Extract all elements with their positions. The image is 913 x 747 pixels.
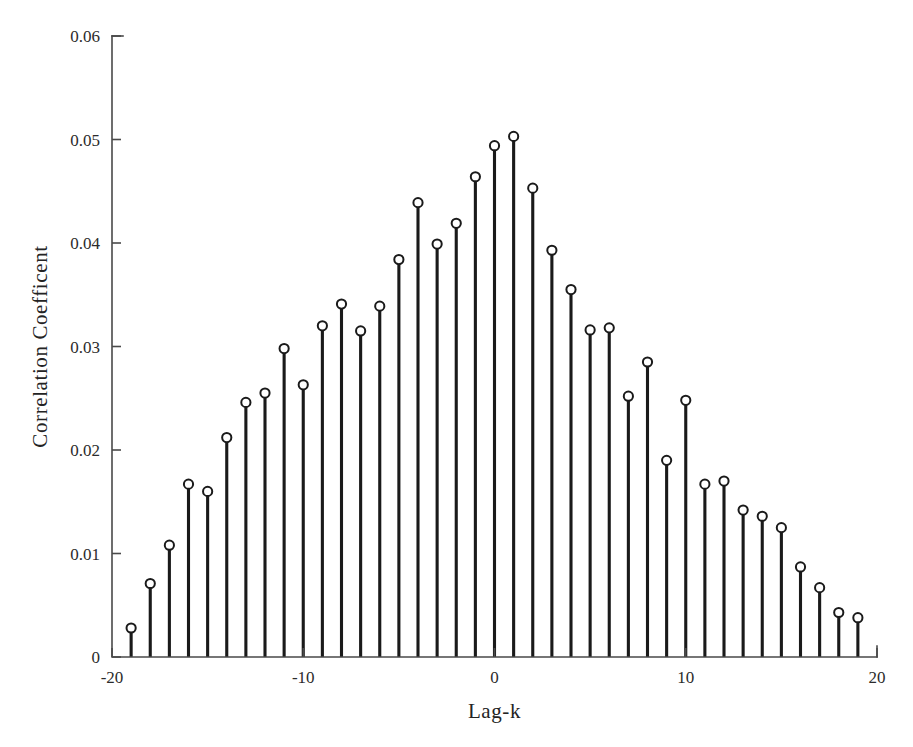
y-tick-label: 0.04 [70,234,100,253]
x-axis-title: Lag-k [468,699,521,723]
stem-marker [528,184,537,193]
y-tick-label: 0.01 [70,545,100,564]
stem-marker [394,255,403,264]
stem-marker [184,480,193,489]
stem-marker [433,239,442,248]
x-tick-label: -10 [292,668,315,687]
stem-marker [796,562,805,571]
stem-marker [719,476,728,485]
stem-marker [318,321,327,330]
stem-marker [700,480,709,489]
stem-marker [146,579,155,588]
stem-marker [509,132,518,141]
stem-marker [758,512,767,521]
y-tick-label: 0.02 [70,441,100,460]
stem-marker [165,541,174,550]
stem-marker [337,299,346,308]
stem-marker [356,326,365,335]
y-tick-label: 0.05 [70,131,100,150]
stem-marker [681,396,690,405]
x-tick-label: 0 [490,668,499,687]
x-tick-label: 20 [869,668,886,687]
stem-marker [643,357,652,366]
stem-marker [471,172,480,181]
stem-marker [413,198,422,207]
y-axis-title: Correlation Coefficent [28,245,52,447]
stem-marker [853,613,862,622]
stem-marker [566,285,575,294]
stem-marker [815,583,824,592]
stem-marker [662,456,671,465]
y-tick-label: 0 [92,648,101,667]
stem-marker [241,398,250,407]
stem-marker [547,246,556,255]
x-tick-label: 10 [677,668,694,687]
stem-marker [127,623,136,632]
stem-marker [260,388,269,397]
stem-marker [222,433,231,442]
stem-marker [834,608,843,617]
y-tick-label: 0.06 [70,27,100,46]
stem-marker [490,141,499,150]
stem-marker [203,487,212,496]
stem-marker [624,392,633,401]
stem-marker [739,505,748,514]
stem-marker [280,344,289,353]
stem-marker [452,219,461,228]
stem-marker [605,323,614,332]
stem-marker [299,380,308,389]
x-tick-label: -20 [101,668,124,687]
y-tick-label: 0.03 [70,338,100,357]
stem-marker [586,325,595,334]
stem-marker [777,523,786,532]
stem-plot: 00.010.020.030.040.050.06-20-1001020 Lag… [0,0,913,747]
stem-marker [375,302,384,311]
figure-container: 00.010.020.030.040.050.06-20-1001020 Lag… [0,0,913,747]
